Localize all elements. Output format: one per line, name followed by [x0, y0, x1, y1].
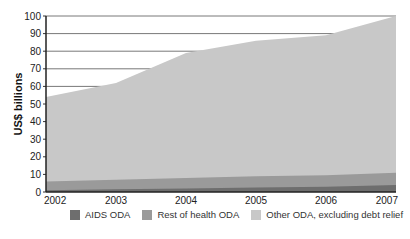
y-tick-label: 0 — [35, 187, 41, 198]
legend-swatch — [70, 210, 80, 220]
y-tick-label: 10 — [30, 169, 42, 180]
area-other-oda-excluding-debt-relief — [46, 16, 396, 192]
y-tick-label: 20 — [30, 151, 42, 162]
x-tick-label: 2003 — [105, 195, 128, 206]
y-tick-label: 100 — [24, 11, 41, 22]
legend-label: Rest of health ODA — [157, 209, 239, 220]
x-tick-label: 2002 — [44, 195, 67, 206]
legend-item-other-oda: Other ODA, excluding debt relief — [251, 209, 403, 220]
y-tick-label: 40 — [30, 116, 42, 127]
x-tick-label: 2006 — [315, 195, 338, 206]
y-tick-label: 90 — [30, 28, 42, 39]
stacked-area-chart: 0102030405060708090100200220032004200520… — [0, 0, 410, 210]
y-tick-label: 50 — [30, 99, 42, 110]
legend-label: Other ODA, excluding debt relief — [266, 209, 403, 220]
y-tick-label: 60 — [30, 81, 42, 92]
x-tick-label: 2004 — [175, 195, 198, 206]
x-tick-label: 2005 — [245, 195, 268, 206]
y-tick-label: 30 — [30, 134, 42, 145]
legend: AIDS ODA Rest of health ODA Other ODA, e… — [70, 209, 403, 220]
y-axis-label: US$ billions — [12, 73, 24, 136]
legend-swatch — [142, 210, 152, 220]
legend-item-rest-of-health-oda: Rest of health ODA — [142, 209, 239, 220]
y-tick-label: 80 — [30, 46, 42, 57]
area-series — [46, 16, 396, 192]
legend-swatch — [251, 210, 261, 220]
x-tick-label: 2007 — [376, 195, 399, 206]
legend-item-aids-oda: AIDS ODA — [70, 209, 130, 220]
legend-label: AIDS ODA — [85, 209, 130, 220]
y-tick-label: 70 — [30, 63, 42, 74]
